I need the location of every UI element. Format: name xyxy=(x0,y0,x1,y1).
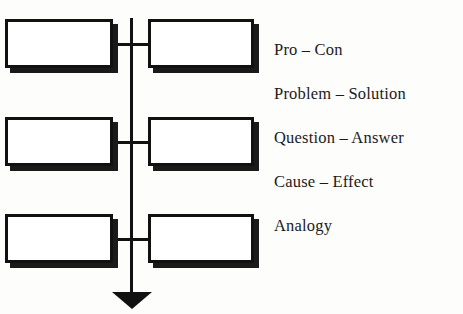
box-left[interactable] xyxy=(5,19,113,68)
box-right[interactable] xyxy=(148,117,254,166)
label-question-answer: Question – Answer xyxy=(274,128,404,148)
box-right[interactable] xyxy=(148,19,254,68)
label-cause-effect: Cause – Effect xyxy=(274,172,374,192)
connector-line xyxy=(108,141,148,144)
diagram-canvas: Pro – Con Problem – Solution Question – … xyxy=(0,0,463,314)
connector-line xyxy=(108,238,148,241)
arrow-down-icon xyxy=(112,292,152,309)
label-analogy: Analogy xyxy=(274,216,332,236)
label-pro-con: Pro – Con xyxy=(274,40,343,60)
box-right[interactable] xyxy=(148,214,254,263)
label-list: Pro – Con Problem – Solution Question – … xyxy=(274,0,463,314)
connector-line xyxy=(108,43,148,46)
label-problem-solution: Problem – Solution xyxy=(274,84,406,104)
box-left[interactable] xyxy=(5,117,113,166)
box-left[interactable] xyxy=(5,214,113,263)
